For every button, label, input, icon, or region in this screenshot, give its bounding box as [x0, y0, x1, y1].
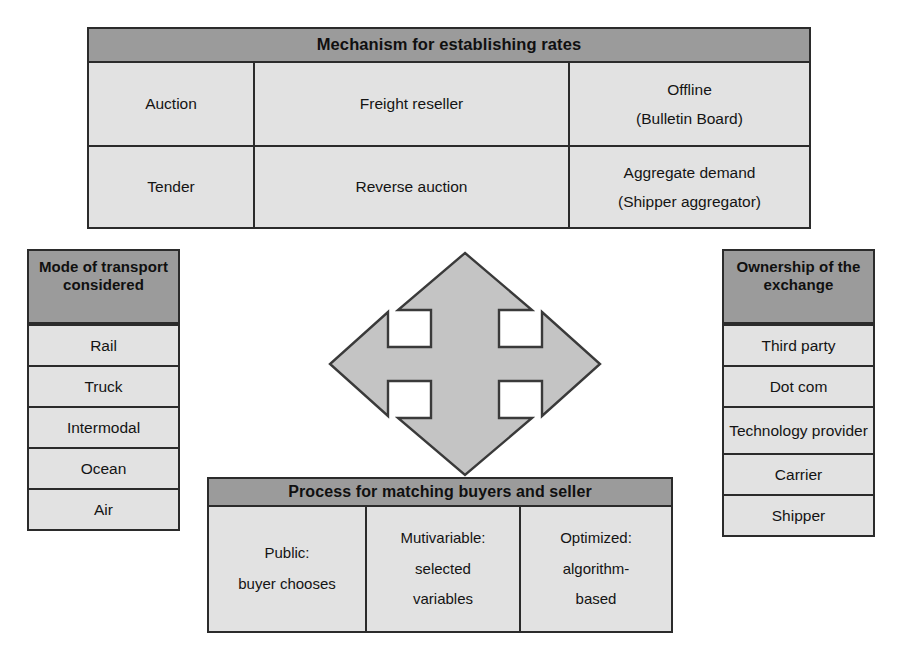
cell-line: Freight reseller — [360, 89, 463, 118]
cell-line: variables — [413, 584, 473, 615]
mode-of-transport-table: Mode of transport considered Rail Truck … — [27, 249, 180, 531]
list-item: Truck — [29, 365, 178, 406]
table-row: Auction Freight reseller Offline (Bullet… — [89, 63, 809, 145]
table-row: Public: buyer chooses Mutivariable: sele… — [209, 507, 671, 631]
list-item: Technology provider — [724, 406, 873, 453]
table-row: Tender Reverse auction Aggregate demand … — [89, 145, 809, 227]
cell-line: Aggregate demand — [624, 158, 756, 187]
process-matching-header: Process for matching buyers and seller — [209, 479, 671, 507]
list-item: Intermodal — [29, 406, 178, 447]
list-item: Air — [29, 488, 178, 529]
list-item: Rail — [29, 324, 178, 365]
cell-line: (Bulletin Board) — [636, 104, 743, 133]
cell-line: Auction — [145, 89, 197, 118]
process-matching-table: Process for matching buyers and seller P… — [207, 477, 673, 633]
mode-of-transport-header: Mode of transport considered — [29, 251, 178, 324]
cell-line: Reverse auction — [355, 172, 467, 201]
four-way-arrow-icon — [327, 250, 603, 478]
cell-line: Public: — [264, 538, 309, 569]
list-item: Shipper — [724, 494, 873, 535]
process-cell-optimized: Optimized: algorithm- based — [519, 507, 671, 631]
list-item: Carrier — [724, 453, 873, 494]
list-item: Dot com — [724, 365, 873, 406]
mechanism-table: Mechanism for establishing rates Auction… — [87, 27, 811, 229]
mechanism-cell-offline: Offline (Bulletin Board) — [568, 63, 809, 145]
mechanism-table-header: Mechanism for establishing rates — [89, 29, 809, 63]
mechanism-cell-aggregate-demand: Aggregate demand (Shipper aggregator) — [568, 147, 809, 227]
mechanism-cell-tender: Tender — [89, 147, 253, 227]
cell-line: selected — [415, 554, 471, 585]
ownership-of-exchange-table: Ownership of the exchange Third party Do… — [722, 249, 875, 537]
cell-line: based — [576, 584, 617, 615]
cell-line: buyer chooses — [238, 569, 336, 600]
cell-line: Optimized: — [560, 523, 632, 554]
process-cell-multivariable: Mutivariable: selected variables — [365, 507, 519, 631]
cell-line: (Shipper aggregator) — [618, 187, 761, 216]
ownership-of-exchange-header: Ownership of the exchange — [724, 251, 873, 324]
mechanism-cell-auction: Auction — [89, 63, 253, 145]
process-cell-public: Public: buyer chooses — [209, 507, 365, 631]
cell-line: Mutivariable: — [400, 523, 485, 554]
cell-line: algorithm- — [563, 554, 630, 585]
cell-line: Offline — [667, 75, 712, 104]
list-item: Third party — [724, 324, 873, 365]
cell-line: Tender — [147, 172, 194, 201]
mechanism-cell-freight-reseller: Freight reseller — [253, 63, 568, 145]
list-item: Ocean — [29, 447, 178, 488]
mechanism-cell-reverse-auction: Reverse auction — [253, 147, 568, 227]
